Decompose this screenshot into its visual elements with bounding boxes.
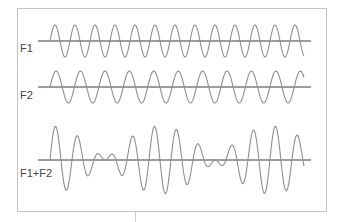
f1-label: F1 <box>20 42 33 54</box>
wave-superposition-diagram: F1 F2 F1+F2 <box>0 0 342 222</box>
sum-label: F1+F2 <box>20 167 52 179</box>
f2-label: F2 <box>20 89 33 101</box>
